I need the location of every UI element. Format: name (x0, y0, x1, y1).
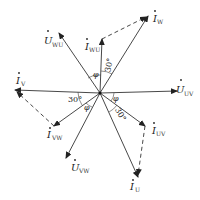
label-u-uv: U UV (176, 79, 194, 97)
svg-text:WU: WU (89, 46, 100, 53)
label-i-uv: I UV (151, 122, 166, 137)
angle-phi-top: φ (93, 70, 99, 79)
origin-dot (98, 91, 101, 94)
label-u-wu: U WU (44, 30, 63, 48)
svg-text:VW: VW (78, 167, 90, 174)
vector-u-wu (59, 33, 100, 93)
label-u-vw: U VW (71, 159, 90, 174)
phasor-diagram-svg: 30° φ 30° φ φ 30° U WU I WU I W I V U (0, 0, 200, 200)
angle-30-top: 30° (103, 57, 114, 73)
angle-phi-right: φ (113, 94, 119, 103)
phasor-diagram: 30° φ 30° φ φ 30° U WU I WU I W I V U (0, 0, 200, 200)
svg-text:UV: UV (156, 130, 166, 137)
svg-text:VW: VW (51, 134, 63, 141)
svg-text:V: V (20, 80, 26, 87)
svg-text:WU: WU (52, 41, 63, 48)
label-i-v: I V (15, 72, 26, 87)
label-i-wu: I WU (84, 38, 100, 53)
vector-i-u (100, 93, 138, 177)
dashed-link-iuv-iu (138, 126, 145, 175)
vector-u-uv (100, 91, 177, 93)
angle-30-left: 30° (68, 95, 82, 104)
vector-i-v (15, 90, 100, 93)
svg-text:U: U (135, 186, 140, 193)
angle-30-bottom: 30° (113, 106, 128, 123)
label-i-u: I U (129, 179, 140, 193)
svg-text:UV: UV (184, 90, 194, 97)
label-i-w: I W (152, 10, 164, 25)
svg-text:W: W (157, 18, 164, 25)
angle-phi-left: φ (84, 103, 90, 112)
dashed-link-iwu-iw (102, 17, 146, 39)
dashed-link-ivw-iv (17, 92, 54, 126)
label-i-vw: I VW (46, 127, 63, 141)
vector-i-wu (100, 39, 102, 93)
